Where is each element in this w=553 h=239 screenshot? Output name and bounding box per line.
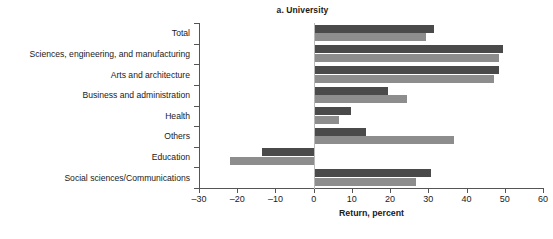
- category-label: Health: [165, 111, 190, 121]
- x-axis-title: Return, percent: [199, 208, 544, 218]
- x-axis-tick-label: –10: [260, 194, 290, 204]
- zero-reference-line: [314, 23, 315, 189]
- bar-series-light: [230, 157, 314, 165]
- bar-series-light: [314, 178, 416, 186]
- x-axis-tick: [275, 189, 276, 193]
- bar-series-dark: [314, 45, 503, 53]
- category-label: Business and administration: [83, 90, 190, 100]
- bar-series-light: [314, 75, 495, 83]
- category-axis-labels: TotalSciences, engineering, and manufact…: [0, 23, 194, 188]
- chart-figure: a. University TotalSciences, engineering…: [0, 0, 553, 239]
- bar-series-light: [314, 33, 427, 41]
- x-axis-tick-label: 0: [299, 194, 329, 204]
- bar-series-light: [314, 136, 454, 144]
- x-axis-line: [199, 188, 544, 189]
- bar-series-dark: [314, 107, 351, 115]
- bar-series-dark: [314, 87, 389, 95]
- bar-series-dark: [314, 169, 431, 177]
- y-axis-tick: [194, 85, 199, 86]
- bar-series-light: [314, 116, 339, 124]
- bar-series-light: [314, 95, 408, 103]
- category-label: Total: [172, 28, 190, 38]
- x-axis-tick-label: 60: [528, 194, 553, 204]
- y-axis-tick: [194, 23, 199, 24]
- x-axis-tick: [428, 189, 429, 193]
- x-axis-tick: [237, 189, 238, 193]
- y-axis-tick: [194, 167, 199, 168]
- x-axis-tick-label: –30: [184, 194, 214, 204]
- y-axis-tick: [194, 64, 199, 65]
- x-axis-tick-label: 30: [413, 194, 443, 204]
- x-axis-tick: [505, 189, 506, 193]
- x-axis-tick: [467, 189, 468, 193]
- x-axis-tick: [352, 189, 353, 193]
- x-axis-tick-label: 50: [490, 194, 520, 204]
- x-axis-tick: [390, 189, 391, 193]
- bar-series-dark: [314, 25, 434, 33]
- category-label: Arts and architecture: [111, 70, 190, 80]
- bar-series-light: [314, 54, 499, 62]
- y-axis-tick: [194, 147, 199, 148]
- x-axis-tick: [314, 189, 315, 193]
- bar-series-dark: [314, 66, 499, 74]
- y-axis-tick: [194, 126, 199, 127]
- category-label: Education: [152, 152, 190, 162]
- y-axis-tick: [194, 44, 199, 45]
- x-axis-tick-label: –20: [222, 194, 252, 204]
- bar-series-dark: [262, 148, 314, 156]
- chart-title: a. University: [0, 5, 553, 15]
- category-label: Social sciences/Communications: [64, 173, 190, 183]
- category-label: Sciences, engineering, and manufacturing: [29, 49, 190, 59]
- x-axis-tick-label: 40: [452, 194, 482, 204]
- category-label: Others: [164, 131, 190, 141]
- plot-area: [199, 23, 543, 188]
- x-axis-tick: [199, 189, 200, 193]
- x-axis-tick-label: 20: [375, 194, 405, 204]
- x-axis-tick: [543, 189, 544, 193]
- figure-footnote: [0, 231, 553, 239]
- x-axis-tick-label: 10: [337, 194, 367, 204]
- bar-series-dark: [314, 128, 366, 136]
- y-axis-tick: [194, 106, 199, 107]
